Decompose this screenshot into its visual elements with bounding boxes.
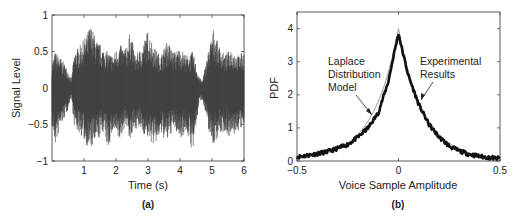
x-tick-label: 5 [209,165,215,176]
x-tick-label: 0.5 [493,165,507,176]
x-axis-label-b: Voice Sample Amplitude [339,179,458,191]
x-tick-label: 4 [177,165,183,176]
x-tick-label: 0 [396,165,402,176]
y-tick-label: 4 [287,23,293,34]
y-tick-label: 0.5 [34,46,48,57]
y-axis-label-a: Signal Level [10,58,22,118]
arrowhead-icon [421,93,425,100]
y-axis-label-b: PDF [268,77,280,99]
waveform-series [52,29,244,148]
x-tick-label: 3 [145,165,151,176]
y-tick-label: −0.5 [28,119,48,130]
experimental-results-curve [297,35,500,160]
y-tick-label: 0 [42,83,48,94]
annotation-experimental: Experimental Results [420,55,484,80]
x-axis-label-a: Time (s) [128,179,168,191]
y-tick-label: 2 [287,89,293,100]
y-tick-label: 3 [287,56,293,67]
y-axis-ticks-b: 01234 [287,23,500,166]
chart-b: −0.500.5 01234 Laplace Distribution Mode… [268,12,507,210]
x-tick-label: −0.5 [287,165,307,176]
y-tick-label: −1 [37,156,49,167]
x-tick-label: 6 [241,165,247,176]
figure: 123456 −1−0.500.51 Time (s) Signal Level… [0,0,517,222]
laplace-model-curve [297,29,500,159]
caption-b: (b) [392,199,405,210]
annotation-laplace: Laplace Distribution Model [328,55,383,93]
y-tick-label: 1 [42,10,48,21]
caption-a: (a) [142,199,154,210]
x-tick-label: 1 [81,165,87,176]
chart-a: 123456 −1−0.500.51 Time (s) Signal Level… [10,10,247,211]
y-tick-label: 0 [287,156,293,167]
x-tick-label: 2 [113,165,119,176]
y-tick-label: 1 [287,122,293,133]
